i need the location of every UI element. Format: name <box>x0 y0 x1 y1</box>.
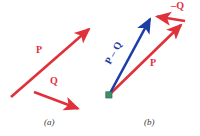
label-vector-minus-q-panel-b: –Q <box>171 1 184 11</box>
figure-canvas <box>0 0 200 136</box>
vector-minus-q-panel-b <box>157 17 185 22</box>
panel-b-group <box>106 17 185 99</box>
label-vector-p-panel-a: P <box>36 45 42 55</box>
panel-a-group <box>11 29 89 109</box>
label-vector-q-panel-a: Q <box>50 76 58 86</box>
vector-subtraction-figure: P Q (a) P – Q P –Q (b) <box>0 0 200 136</box>
vector-q-panel-a <box>34 92 78 109</box>
vector-p-panel-a <box>11 29 89 97</box>
caption-panel-a: (a) <box>44 118 55 127</box>
label-vector-p-panel-b: P <box>150 58 156 68</box>
vector-p-panel-b <box>109 25 181 95</box>
caption-panel-b: (b) <box>144 118 155 127</box>
origin-point-dot <box>106 92 112 98</box>
